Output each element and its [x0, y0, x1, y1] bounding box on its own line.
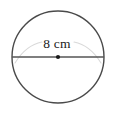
geometry-figure-canvas: 8 cm: [0, 0, 115, 113]
center-point-dot: [56, 55, 60, 59]
circle-diagram-svg: 8 cm: [0, 0, 115, 113]
diameter-label: 8 cm: [43, 36, 71, 51]
